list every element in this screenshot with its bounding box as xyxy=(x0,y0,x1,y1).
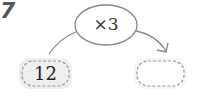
arrowhead-icon xyxy=(157,43,168,52)
arrow-right xyxy=(136,31,166,51)
input-value: 12 xyxy=(19,58,72,89)
operation-label: ×3 xyxy=(76,14,136,34)
connector-left xyxy=(49,32,76,54)
output-value[interactable] xyxy=(134,58,187,89)
output-box[interactable] xyxy=(134,58,187,89)
input-box: 12 xyxy=(19,58,72,89)
